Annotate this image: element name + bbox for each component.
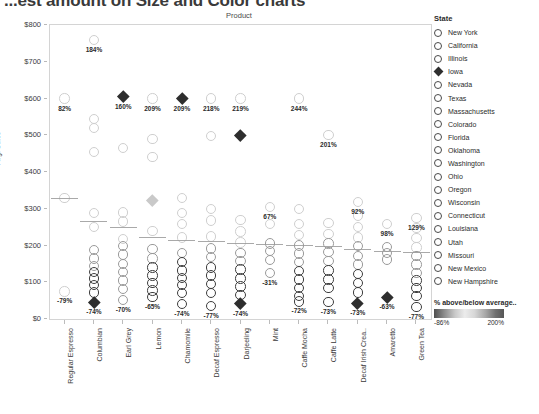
- legend-item-florida[interactable]: Florida: [434, 131, 539, 144]
- legend-item-new-york[interactable]: New York: [434, 26, 539, 39]
- x-axis-tick-label[interactable]: Mint: [272, 328, 279, 341]
- data-point-circle[interactable]: [147, 226, 157, 236]
- data-point-circle[interactable]: [294, 219, 304, 229]
- x-axis-tick-label[interactable]: Decaf Espresso: [213, 328, 220, 377]
- data-point-circle[interactable]: [206, 301, 216, 311]
- data-point-circle[interactable]: [353, 222, 363, 232]
- data-point-circle[interactable]: [265, 202, 275, 212]
- data-point-circle[interactable]: [147, 152, 157, 162]
- data-point-circle[interactable]: [147, 292, 157, 302]
- legend-item-connecticut[interactable]: Connecticut: [434, 209, 539, 222]
- data-point-circle[interactable]: [89, 222, 99, 232]
- data-point-circle[interactable]: [294, 204, 304, 214]
- data-point-circle[interactable]: [206, 288, 216, 298]
- data-point-circle[interactable]: [235, 93, 245, 103]
- x-axis-tick-label[interactable]: Decaf Irish Crea..: [360, 328, 367, 382]
- legend-item-texas[interactable]: Texas: [434, 91, 539, 104]
- x-axis-tick-label[interactable]: Earl Grey: [125, 328, 132, 358]
- legend-item-new-mexico[interactable]: New Mexico: [434, 262, 539, 275]
- data-point-circle[interactable]: [206, 93, 216, 103]
- data-point-circle[interactable]: [206, 204, 216, 214]
- data-point-circle[interactable]: [294, 93, 304, 103]
- data-point-diamond[interactable]: [381, 291, 393, 303]
- data-point-circle[interactable]: [118, 284, 128, 294]
- data-point-diamond[interactable]: [234, 298, 246, 310]
- legend-item-oklahoma[interactable]: Oklahoma: [434, 144, 539, 157]
- data-point-circle[interactable]: [235, 226, 245, 236]
- data-point-circle[interactable]: [147, 93, 157, 103]
- data-point-circle[interactable]: [177, 299, 187, 309]
- data-point-circle[interactable]: [89, 147, 99, 157]
- legend-item-colorado[interactable]: Colorado: [434, 118, 539, 131]
- x-axis-tick-label[interactable]: Darjeeling: [243, 328, 250, 360]
- data-point-circle[interactable]: [294, 296, 304, 306]
- x-axis-tick-label[interactable]: Lemon: [155, 328, 162, 349]
- data-point-circle[interactable]: [177, 232, 187, 242]
- data-point-diamond[interactable]: [352, 297, 364, 309]
- data-point-circle[interactable]: [235, 215, 245, 225]
- data-point-diamond[interactable]: [234, 129, 246, 141]
- legend-item-oregon[interactable]: Oregon: [434, 183, 539, 196]
- data-point-diamond[interactable]: [147, 195, 159, 207]
- x-axis-tick-label[interactable]: Caffe Latte: [330, 328, 337, 362]
- data-point-circle[interactable]: [118, 143, 128, 153]
- x-axis-tick-label[interactable]: Columbian: [96, 328, 103, 361]
- data-point-circle[interactable]: [323, 130, 333, 140]
- data-point-circle[interactable]: [411, 291, 421, 301]
- plot-area[interactable]: 82%-79%184%-74%160%-70%209%-65%209%-74%2…: [49, 24, 432, 320]
- data-point-circle[interactable]: [294, 230, 304, 240]
- data-point-circle[interactable]: [177, 208, 187, 218]
- legend-item-nevada[interactable]: Nevada: [434, 78, 539, 91]
- data-point-circle[interactable]: [177, 219, 187, 229]
- legend-item-ohio[interactable]: Ohio: [434, 170, 539, 183]
- data-point-circle[interactable]: [59, 93, 69, 103]
- data-point-circle[interactable]: [177, 193, 187, 203]
- legend-item-washington[interactable]: Washington: [434, 157, 539, 170]
- data-point-circle[interactable]: [177, 288, 187, 298]
- legend-item-iowa[interactable]: Iowa: [434, 65, 539, 78]
- data-point-circle[interactable]: [353, 287, 363, 297]
- data-point-circle[interactable]: [323, 229, 333, 239]
- legend-item-new-hampshire[interactable]: New Hampshire: [434, 275, 539, 288]
- circle-marker-icon: [434, 251, 442, 259]
- x-axis-tick-label[interactable]: Chamomile: [184, 328, 191, 363]
- data-point-circle[interactable]: [265, 255, 275, 265]
- data-point-circle[interactable]: [206, 231, 216, 241]
- data-point-circle[interactable]: [206, 252, 216, 262]
- x-axis-tick-label[interactable]: Caffe Mocha: [301, 328, 308, 368]
- legend-item-label: Illinois: [448, 55, 467, 62]
- data-point-circle[interactable]: [382, 219, 392, 229]
- x-axis-tick-label[interactable]: Green Tea: [418, 328, 425, 361]
- legend-item-missouri[interactable]: Missouri: [434, 249, 539, 262]
- data-point-diamond[interactable]: [88, 296, 100, 308]
- data-point-circle[interactable]: [118, 295, 128, 305]
- legend-item-louisiana[interactable]: Louisiana: [434, 222, 539, 235]
- data-point-circle[interactable]: [89, 208, 99, 218]
- data-point-circle[interactable]: [411, 213, 421, 223]
- legend-item-illinois[interactable]: Illinois: [434, 52, 539, 65]
- data-point-circle[interactable]: [411, 302, 421, 312]
- data-point-circle[interactable]: [323, 297, 333, 307]
- data-point-circle[interactable]: [59, 286, 69, 296]
- legend-item-massachusetts[interactable]: Massachusetts: [434, 105, 539, 118]
- data-point-circle[interactable]: [323, 218, 333, 228]
- legend-item-wisconsin[interactable]: Wisconsin: [434, 196, 539, 209]
- x-axis-tick-label[interactable]: Amaretto: [389, 328, 396, 356]
- data-point-diamond[interactable]: [176, 92, 188, 104]
- data-point-label: -63%: [369, 303, 405, 310]
- legend-item-utah[interactable]: Utah: [434, 236, 539, 249]
- data-point-circle[interactable]: [353, 197, 363, 207]
- data-point-circle[interactable]: [323, 283, 333, 293]
- x-axis-tick-label[interactable]: Regular Espresso: [67, 328, 74, 384]
- data-point-circle[interactable]: [147, 134, 157, 144]
- data-point-diamond[interactable]: [117, 91, 129, 103]
- data-point-circle[interactable]: [265, 219, 275, 229]
- data-point-circle[interactable]: [89, 123, 99, 133]
- data-point-circle[interactable]: [89, 35, 99, 45]
- legend-item-california[interactable]: California: [434, 39, 539, 52]
- data-point-circle[interactable]: [118, 216, 128, 226]
- data-point-circle[interactable]: [206, 131, 216, 141]
- data-point-circle[interactable]: [265, 268, 275, 278]
- data-point-circle[interactable]: [382, 254, 392, 264]
- data-point-circle[interactable]: [206, 215, 216, 225]
